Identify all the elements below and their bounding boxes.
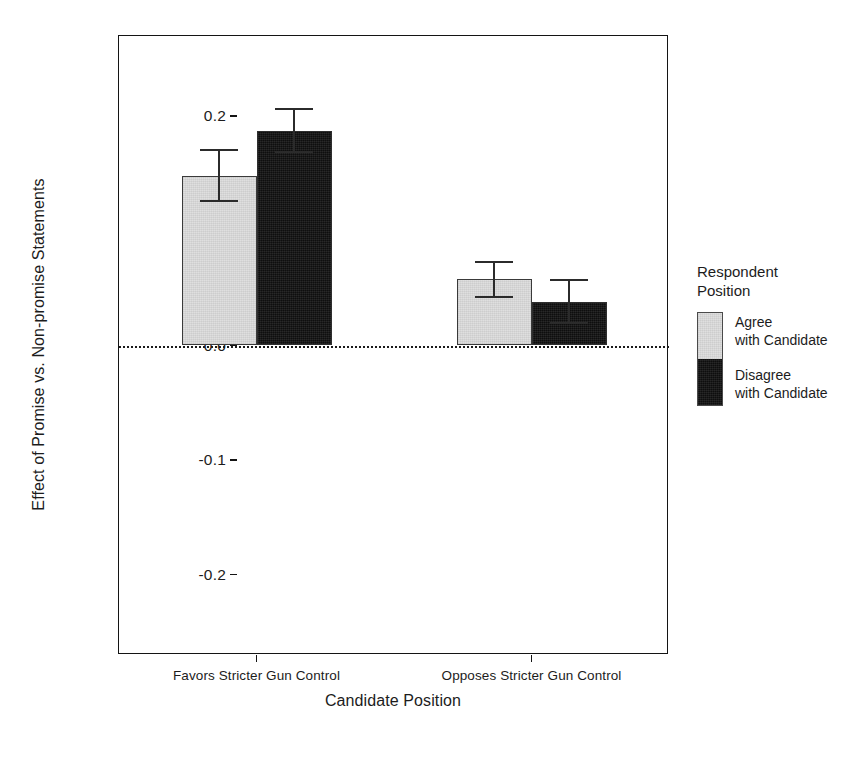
- error-bar-cap-top: [200, 149, 238, 151]
- error-bar-agree-group-0: [200, 149, 238, 202]
- x-tick-mark-0: [256, 655, 258, 662]
- y-tick-mark: [230, 115, 237, 117]
- error-bar-cap-top: [275, 108, 313, 110]
- error-bar-cap-top: [475, 261, 513, 263]
- error-bar-stem: [218, 149, 220, 202]
- figure: Effect of Promise vs. Non-promise Statem…: [0, 0, 866, 758]
- error-bar-cap-bottom: [550, 322, 588, 324]
- bar-disagree-group-0: [257, 131, 332, 345]
- legend-body: Agree with Candidate Disagree with Candi…: [697, 312, 862, 406]
- y-axis-title: Effect of Promise vs. Non-promise Statem…: [30, 35, 60, 654]
- legend: Respondent Position Agree with Candidate…: [697, 262, 862, 406]
- y-tick-label: 0.2: [204, 105, 226, 127]
- error-bar-cap-bottom: [200, 200, 238, 202]
- error-bar-cap-top: [550, 279, 588, 281]
- error-bar-stem: [493, 261, 495, 299]
- error-bar-cap-bottom: [475, 296, 513, 298]
- x-tick-label-0: Favors Stricter Gun Control: [173, 668, 340, 683]
- legend-entry-disagree: Disagree with Candidate: [735, 366, 828, 402]
- y-tick-label: -0.2: [198, 564, 226, 586]
- x-tick-mark-1: [531, 655, 533, 662]
- error-bar-stem: [293, 108, 295, 153]
- error-bar-disagree-group-1: [550, 279, 588, 324]
- y-tick-label: -0.1: [198, 449, 226, 471]
- error-bar-cap-bottom: [275, 151, 313, 153]
- zero-reference-line: [119, 346, 669, 348]
- x-tick-label-1: Opposes Stricter Gun Control: [442, 668, 622, 683]
- legend-swatch-agree: [698, 313, 722, 359]
- legend-swatch: [697, 312, 723, 406]
- legend-labels: Agree with Candidate Disagree with Candi…: [735, 312, 828, 402]
- error-bar-agree-group-1: [475, 261, 513, 299]
- error-bar-disagree-group-0: [275, 108, 313, 153]
- legend-title: Respondent Position: [697, 262, 862, 300]
- x-axis-title: Candidate Position: [118, 692, 668, 710]
- legend-entry-agree: Agree with Candidate: [735, 313, 828, 349]
- legend-swatch-disagree: [698, 359, 722, 405]
- plot-area: 0.2 0.1 0.0 -0.1 -0.2 Favors Stricter Gu…: [118, 35, 668, 654]
- y-tick-mark: [230, 574, 237, 576]
- y-tick-mark: [230, 459, 237, 461]
- error-bar-stem: [568, 279, 570, 324]
